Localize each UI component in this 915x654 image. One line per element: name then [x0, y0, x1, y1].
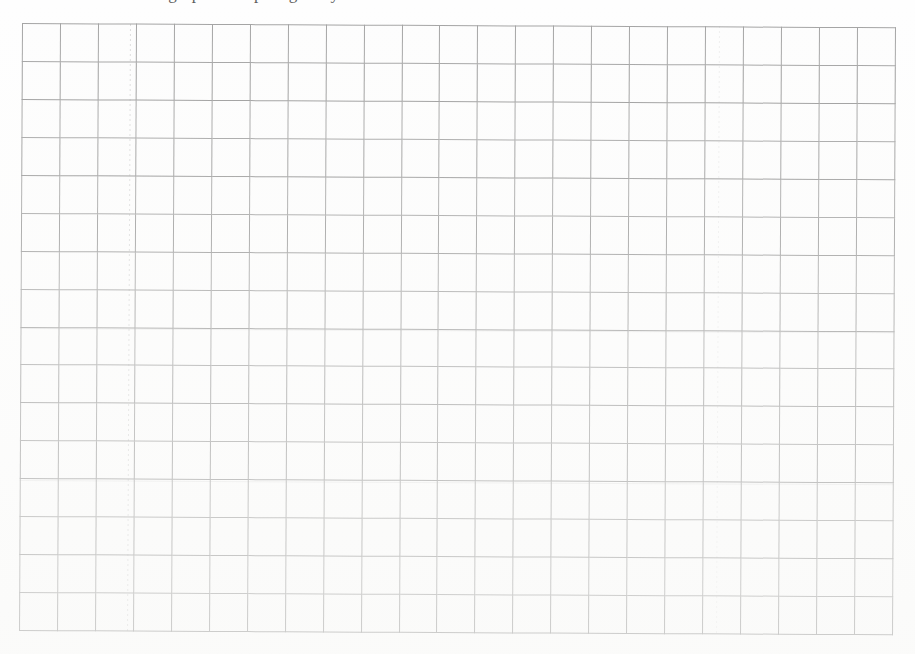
grid-cell[interactable]	[743, 179, 781, 217]
grid-cell[interactable]	[437, 519, 475, 557]
grid-cell[interactable]	[856, 255, 894, 293]
grid-cell[interactable]	[857, 141, 895, 179]
grid-cell[interactable]	[855, 407, 893, 445]
grid-cell[interactable]	[780, 369, 818, 407]
grid-cell[interactable]	[513, 481, 551, 519]
grid-cell[interactable]	[60, 24, 98, 62]
grid-cell[interactable]	[627, 558, 665, 596]
grid-cell[interactable]	[515, 254, 553, 292]
grid-cell[interactable]	[743, 103, 781, 141]
grid-cell[interactable]	[741, 444, 779, 482]
grid-cell[interactable]	[857, 66, 895, 104]
grid-cell[interactable]	[742, 368, 780, 406]
grid-cell[interactable]	[590, 368, 628, 406]
grid-cell[interactable]	[324, 404, 362, 442]
grid-cell[interactable]	[475, 557, 513, 595]
grid-cell[interactable]	[477, 253, 515, 291]
grid-cell[interactable]	[703, 482, 741, 520]
grid-cell[interactable]	[818, 217, 856, 255]
grid-cell[interactable]	[401, 291, 439, 329]
grid-cell[interactable]	[589, 482, 627, 520]
grid-cell[interactable]	[516, 64, 554, 102]
grid-cell[interactable]	[704, 292, 742, 330]
grid-cell[interactable]	[514, 291, 552, 329]
grid-cell[interactable]	[326, 101, 364, 139]
grid-cell[interactable]	[629, 140, 667, 178]
grid-cell[interactable]	[514, 329, 552, 367]
grid-cell[interactable]	[136, 62, 174, 100]
grid-cell[interactable]	[817, 483, 855, 521]
grid-cell[interactable]	[818, 331, 856, 369]
grid-cell[interactable]	[514, 443, 552, 481]
grid-cell[interactable]	[58, 555, 96, 593]
grid-cell[interactable]	[553, 102, 591, 140]
grid-cell[interactable]	[666, 330, 704, 368]
grid-cell[interactable]	[324, 366, 362, 404]
grid-cell[interactable]	[743, 27, 781, 65]
grid-cell[interactable]	[399, 594, 437, 632]
grid-cell[interactable]	[590, 444, 628, 482]
grid-cell[interactable]	[630, 26, 668, 64]
grid-cell[interactable]	[20, 517, 58, 555]
grid-cell[interactable]	[174, 24, 212, 62]
grid-cell[interactable]	[439, 253, 477, 291]
grid-cell[interactable]	[401, 139, 439, 177]
grid-cell[interactable]	[287, 252, 325, 290]
grid-cell[interactable]	[362, 442, 400, 480]
grid-cell[interactable]	[96, 479, 134, 517]
grid-cell[interactable]	[705, 65, 743, 103]
grid-cell[interactable]	[212, 138, 250, 176]
grid-cell[interactable]	[476, 367, 514, 405]
grid-cell[interactable]	[134, 441, 172, 479]
grid-cell[interactable]	[96, 517, 134, 555]
grid-cell[interactable]	[286, 328, 324, 366]
grid-cell[interactable]	[780, 407, 818, 445]
grid-cell[interactable]	[552, 292, 590, 330]
grid-cell[interactable]	[780, 255, 818, 293]
grid-cell[interactable]	[136, 24, 174, 62]
grid-cell[interactable]	[59, 251, 97, 289]
grid-cell[interactable]	[174, 62, 212, 100]
grid-cell[interactable]	[211, 252, 249, 290]
grid-cell[interactable]	[628, 254, 666, 292]
grid-cell[interactable]	[135, 214, 173, 252]
grid-cell[interactable]	[211, 290, 249, 328]
grid-cell[interactable]	[363, 291, 401, 329]
grid-cell[interactable]	[287, 139, 325, 177]
grid-cell[interactable]	[819, 27, 857, 65]
grid-cell[interactable]	[667, 216, 705, 254]
grid-cell[interactable]	[857, 103, 895, 141]
grid-cell[interactable]	[210, 366, 248, 404]
grid-cell[interactable]	[212, 100, 250, 138]
grid-cell[interactable]	[362, 329, 400, 367]
grid-cell[interactable]	[590, 330, 628, 368]
grid-cell[interactable]	[134, 403, 172, 441]
grid-cell[interactable]	[704, 368, 742, 406]
grid-cell[interactable]	[58, 441, 96, 479]
grid-cell[interactable]	[324, 480, 362, 518]
grid-cell[interactable]	[21, 327, 59, 365]
grid-cell[interactable]	[98, 24, 136, 62]
grid-cell[interactable]	[21, 289, 59, 327]
grid-cell[interactable]	[133, 593, 171, 631]
grid-cell[interactable]	[668, 27, 706, 65]
grid-cell[interactable]	[171, 593, 209, 631]
grid-cell[interactable]	[363, 177, 401, 215]
grid-cell[interactable]	[551, 595, 589, 633]
grid-cell[interactable]	[589, 595, 627, 633]
grid-cell[interactable]	[59, 365, 97, 403]
grid-cell[interactable]	[135, 328, 173, 366]
grid-cell[interactable]	[779, 482, 817, 520]
grid-cell[interactable]	[285, 556, 323, 594]
grid-cell[interactable]	[741, 520, 779, 558]
grid-cell[interactable]	[210, 442, 248, 480]
grid-cell[interactable]	[439, 177, 477, 215]
grid-cell[interactable]	[476, 329, 514, 367]
grid-cell[interactable]	[173, 176, 211, 214]
grid-cell[interactable]	[742, 255, 780, 293]
grid-cell[interactable]	[136, 138, 174, 176]
grid-cell[interactable]	[361, 556, 399, 594]
grid-cell[interactable]	[513, 557, 551, 595]
grid-cell[interactable]	[400, 367, 438, 405]
grid-cell[interactable]	[781, 103, 819, 141]
